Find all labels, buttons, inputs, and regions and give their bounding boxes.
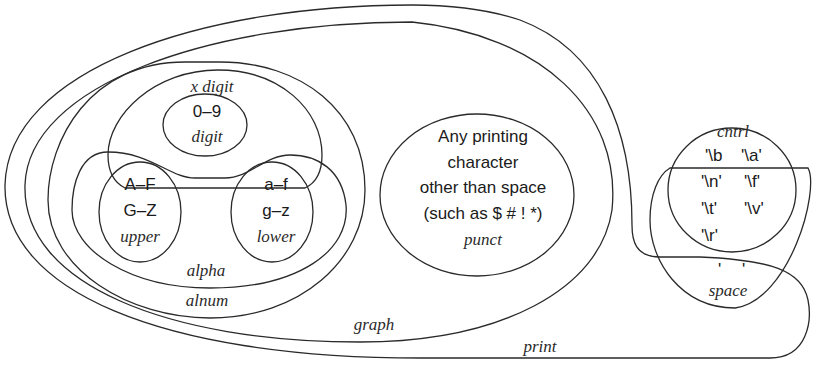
- lower-hex-range: a–f: [264, 175, 288, 194]
- label-xdigit: x digit: [190, 77, 235, 96]
- cntrl-item-tab: '\t': [701, 199, 717, 218]
- cntrl-item-return: '\r': [701, 226, 718, 245]
- punct-line-4: (such as $ # ! *): [423, 204, 542, 223]
- cntrl-item-vtab: '\v': [744, 199, 764, 218]
- upper-hex-range: A–F: [124, 175, 155, 194]
- digit-contents: 0–9: [193, 102, 221, 121]
- lower-range: g–z: [262, 201, 289, 220]
- set-cntrl-boundary: [668, 128, 796, 252]
- punct-line-3: other than space: [420, 178, 547, 197]
- label-alpha: alpha: [187, 261, 226, 280]
- character-class-diagram: x digit 0–9 digit A–F G–Z upper a–f g–z …: [0, 0, 820, 373]
- label-space: space: [709, 281, 748, 300]
- label-alnum: alnum: [186, 291, 229, 310]
- label-cntrl: cntrl: [717, 122, 749, 141]
- label-digit: digit: [191, 127, 223, 146]
- punct-line-1: Any printing: [438, 127, 528, 146]
- cntrl-item-alert: '\a': [741, 146, 762, 165]
- cntrl-item-newline: '\n': [701, 172, 722, 191]
- cntrl-item-formfeed: '\f': [744, 172, 760, 191]
- label-upper: upper: [120, 227, 160, 246]
- label-lower: lower: [257, 227, 296, 246]
- label-graph: graph: [354, 315, 395, 334]
- label-print: print: [522, 337, 557, 356]
- label-punct: punct: [463, 230, 503, 249]
- upper-range: G–Z: [123, 201, 156, 220]
- cntrl-item-backspace: '\b: [705, 146, 722, 165]
- punct-line-2: character: [448, 153, 519, 172]
- space-char: ' ': [718, 260, 753, 279]
